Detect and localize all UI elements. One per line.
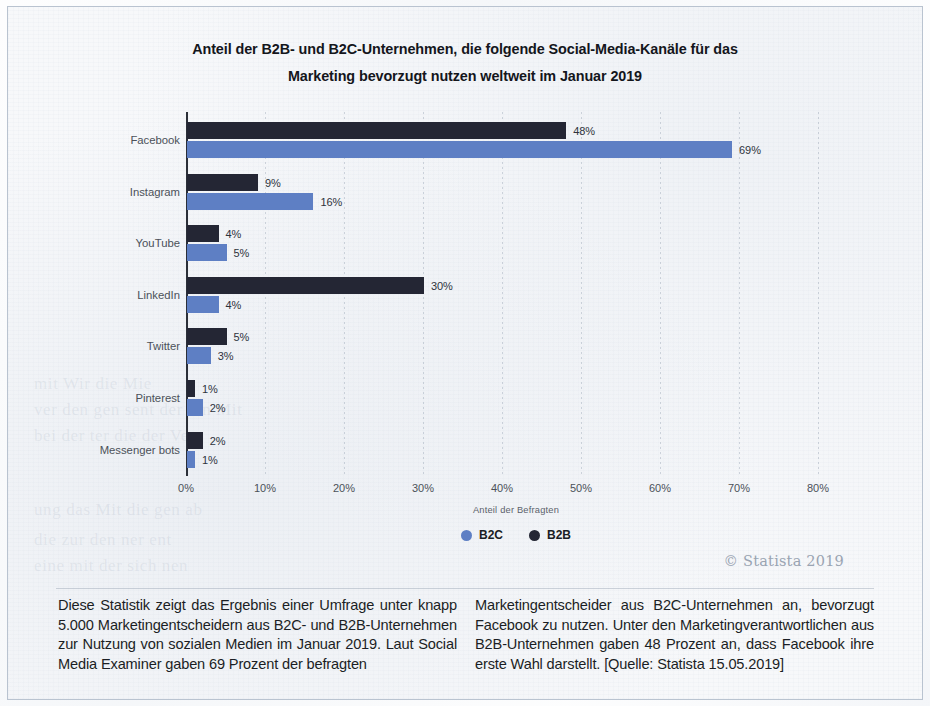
gridline bbox=[581, 112, 582, 474]
bar-b2c-instagram[interactable] bbox=[187, 193, 313, 210]
legend-label-b2c: B2C bbox=[479, 528, 503, 542]
bar-value-b2c-pinterest: 2% bbox=[210, 402, 226, 414]
x-axis-tick-label: 50% bbox=[551, 482, 611, 494]
statista-copyright: © Statista 2019 bbox=[724, 553, 844, 569]
description-paragraph-left: Diese Statistik zeigt das Ergebnis einer… bbox=[58, 596, 457, 674]
category-label-facebook: Facebook bbox=[40, 134, 180, 146]
bar-b2b-twitter[interactable] bbox=[187, 328, 227, 345]
bar-value-b2c-twitter: 3% bbox=[218, 350, 234, 362]
description-column-left: Diese Statistik zeigt das Ergebnis einer… bbox=[58, 596, 457, 674]
category-label-youtube: YouTube bbox=[40, 237, 180, 249]
legend-swatch-b2b-icon bbox=[529, 530, 540, 541]
bar-value-b2b-linkedin: 30% bbox=[431, 280, 453, 292]
x-axis-tick-label: 60% bbox=[630, 482, 690, 494]
bar-value-b2b-twitter: 5% bbox=[234, 331, 250, 343]
bar-value-b2c-linkedin: 4% bbox=[226, 299, 242, 311]
category-label-pinterest: Pinterest bbox=[40, 392, 180, 404]
x-axis-tick-label: 70% bbox=[709, 482, 769, 494]
bar-b2b-youtube[interactable] bbox=[187, 225, 219, 242]
x-axis-tick-label: 0% bbox=[156, 482, 216, 494]
bar-value-b2c-facebook: 69% bbox=[739, 144, 761, 156]
x-axis-tick-label: 80% bbox=[788, 482, 848, 494]
scanned-page: mit Wir die Mie ver den gen sent der ern… bbox=[0, 0, 930, 706]
bar-b2b-messenger-bots[interactable] bbox=[187, 432, 203, 449]
x-axis-tick-label: 10% bbox=[235, 482, 295, 494]
bar-b2b-pinterest[interactable] bbox=[187, 380, 195, 397]
gridline bbox=[502, 112, 503, 474]
gridline bbox=[660, 112, 661, 474]
legend-item-b2b[interactable]: B2B bbox=[529, 528, 571, 542]
bar-value-b2b-youtube: 4% bbox=[226, 228, 242, 240]
bar-value-b2c-messenger-bots: 1% bbox=[202, 454, 218, 466]
description-text-block: Diese Statistik zeigt das Ergebnis einer… bbox=[58, 596, 874, 674]
x-axis-tick-label: 30% bbox=[393, 482, 453, 494]
x-axis-tick-label: 20% bbox=[314, 482, 374, 494]
bar-value-b2c-instagram: 16% bbox=[320, 196, 342, 208]
bar-b2b-instagram[interactable] bbox=[187, 174, 258, 191]
bar-value-b2b-pinterest: 1% bbox=[202, 383, 218, 395]
category-label-instagram: Instagram bbox=[40, 186, 180, 198]
bar-value-b2c-youtube: 5% bbox=[234, 247, 250, 259]
bar-b2c-linkedin[interactable] bbox=[187, 296, 219, 313]
bar-value-b2b-instagram: 9% bbox=[265, 177, 281, 189]
bar-b2c-youtube[interactable] bbox=[187, 244, 227, 261]
chart-legend: B2C B2B bbox=[186, 528, 846, 542]
bar-value-b2b-messenger-bots: 2% bbox=[210, 435, 226, 447]
bar-b2c-pinterest[interactable] bbox=[187, 399, 203, 416]
bar-value-b2b-facebook: 48% bbox=[573, 125, 595, 137]
content-divider bbox=[56, 588, 874, 589]
gridline bbox=[739, 112, 740, 474]
x-axis-tick-label: 40% bbox=[472, 482, 532, 494]
category-label-twitter: Twitter bbox=[40, 340, 180, 352]
category-label-messenger-bots: Messenger bots bbox=[40, 444, 180, 456]
y-axis-line bbox=[186, 112, 188, 476]
gridline bbox=[818, 112, 819, 474]
bar-b2b-facebook[interactable] bbox=[187, 122, 566, 139]
description-paragraph-right: Marketingentscheider aus B2C-Unternehmen… bbox=[475, 596, 874, 674]
legend-swatch-b2c-icon bbox=[461, 530, 472, 541]
legend-label-b2b: B2B bbox=[547, 528, 571, 542]
bar-b2c-twitter[interactable] bbox=[187, 347, 211, 364]
legend-item-b2c[interactable]: B2C bbox=[461, 528, 503, 542]
category-label-linkedin: LinkedIn bbox=[40, 289, 180, 301]
x-axis-title: Anteil der Befragten bbox=[186, 505, 846, 515]
bar-b2c-facebook[interactable] bbox=[187, 141, 732, 158]
bar-b2b-linkedin[interactable] bbox=[187, 277, 424, 294]
bar-b2c-messenger-bots[interactable] bbox=[187, 451, 195, 468]
description-column-right: Marketingentscheider aus B2C-Unternehmen… bbox=[475, 596, 874, 674]
